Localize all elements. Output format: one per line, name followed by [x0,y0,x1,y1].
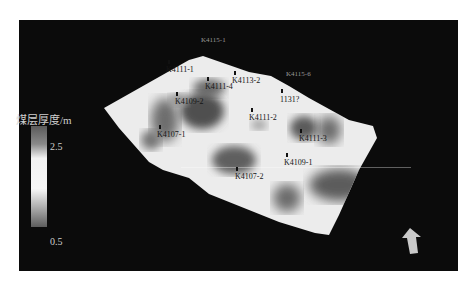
borehole-label: K4111-4 [205,83,233,91]
render-viewport: K4115-1 K4115-6 K4111-1 K4111-4 K4113-2 … [19,20,458,271]
borehole-label: K4113-2 [232,77,260,85]
legend-colorbar [31,126,47,227]
borehole-marker [251,108,253,112]
borehole-label: K4111-2 [249,114,277,122]
borehole-marker [159,125,161,129]
borehole-label: K4107-2 [235,173,263,181]
borehole-label: 1131? [280,96,299,104]
borehole-label: K4107-1 [157,131,185,139]
scan-artifact-line [181,167,411,168]
edge-label: K4115-6 [286,70,311,78]
borehole-marker [236,167,238,171]
legend-max-value: 2.5 [50,142,63,152]
edge-label: K4115-1 [201,36,226,44]
borehole-marker [300,129,302,133]
seam-thickness-surface [19,20,458,271]
north-arrow-icon [402,228,424,256]
borehole-marker [207,77,209,81]
legend-title: 煤层厚度/m [16,114,72,126]
borehole-marker [286,153,288,157]
borehole-marker [176,92,178,96]
borehole-label: K4111-3 [299,135,327,143]
borehole-marker [281,89,283,93]
borehole-marker [168,60,170,64]
borehole-label: K4109-1 [284,159,312,167]
legend-min-value: 0.5 [50,237,63,247]
borehole-label: K4109-2 [175,98,203,106]
borehole-marker [234,71,236,75]
borehole-label: K4111-1 [166,66,194,74]
